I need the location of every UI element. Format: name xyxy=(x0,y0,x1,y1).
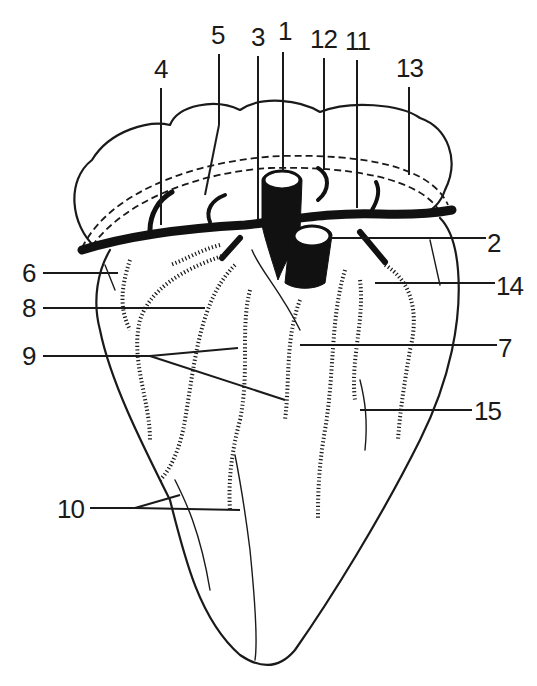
dotted-vessel-4 xyxy=(285,300,300,420)
thin-branch-6 xyxy=(430,240,440,285)
heart-diagram: 1 2 3 4 5 6 7 8 9 10 11 12 13 14 15 xyxy=(0,0,537,686)
label-10: 10 xyxy=(57,494,84,524)
thin-branch-2 xyxy=(235,455,256,660)
pulmonary-opening xyxy=(294,226,330,246)
leader-5b xyxy=(205,125,219,195)
leader-9b xyxy=(150,356,285,400)
label-11: 11 xyxy=(345,26,371,56)
leader-10a xyxy=(135,495,180,508)
vessel-branch-11 xyxy=(372,182,378,210)
vessel-branch-14 xyxy=(360,232,385,262)
dotted-vessel-9 xyxy=(123,260,131,330)
label-7: 7 xyxy=(498,333,512,363)
leader-10b xyxy=(135,508,240,510)
label-12: 12 xyxy=(310,24,337,54)
label-2: 2 xyxy=(487,228,501,258)
label-14: 14 xyxy=(496,271,523,301)
leader-9a xyxy=(150,348,238,356)
vessel-branch-12 xyxy=(318,168,327,200)
label-6: 6 xyxy=(22,258,36,288)
dotted-vessel-5 xyxy=(318,270,345,520)
aorta-opening xyxy=(264,171,300,189)
label-13: 13 xyxy=(396,53,423,83)
label-1: 1 xyxy=(278,16,292,46)
label-3: 3 xyxy=(251,22,265,52)
thin-branch-5 xyxy=(105,265,115,290)
dotted-vessel-7 xyxy=(385,265,414,440)
label-5: 5 xyxy=(211,20,225,50)
label-9: 9 xyxy=(22,341,36,371)
label-8: 8 xyxy=(22,293,36,323)
vessel-branch-5 xyxy=(208,195,225,222)
dotted-vessel-8 xyxy=(170,245,220,265)
label-4: 4 xyxy=(154,54,168,84)
thin-branch-4 xyxy=(360,380,366,450)
labels: 1 2 3 4 5 6 7 8 9 10 11 12 13 14 15 xyxy=(22,16,523,524)
dotted-vessel-1 xyxy=(137,255,225,440)
ventricle-outline xyxy=(96,218,458,665)
label-15: 15 xyxy=(474,396,501,426)
